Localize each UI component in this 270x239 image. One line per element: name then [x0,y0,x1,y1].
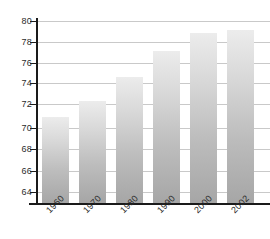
bar-chart: 80 78 76 74 72 70 68 66 64 1960 1970 198… [0,0,270,239]
bar-1970 [79,101,106,203]
ytick-label-74: 74 [6,78,32,88]
bar-1990 [153,51,180,203]
bar-2002 [227,30,254,203]
ytick-label-80: 80 [6,16,32,26]
gridline-80 [37,21,270,22]
y-axis-line [36,18,38,205]
ytick-label-64: 64 [6,187,32,197]
ytick-label-70: 70 [6,123,32,133]
bar-1980 [116,77,143,203]
bar-1960 [42,117,69,203]
ytick-label-72: 72 [6,99,32,109]
ytick-label-68: 68 [6,144,32,154]
ytick-label-76: 76 [6,58,32,68]
ytick-label-66: 66 [6,166,32,176]
ytick-label-78: 78 [6,37,32,47]
bar-2000 [190,33,217,203]
